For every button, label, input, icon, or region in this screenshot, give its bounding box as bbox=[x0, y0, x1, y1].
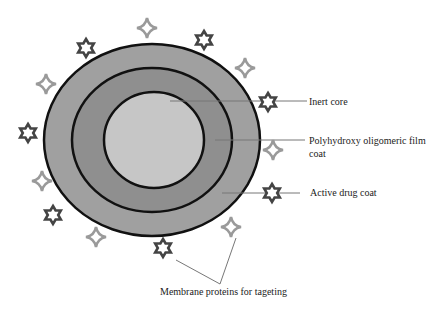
six-pointed-star-icon bbox=[45, 206, 61, 224]
polyhydroxy-label-line1: Polyhydroxy oligomeric film bbox=[309, 135, 426, 146]
four-pointed-star-icon bbox=[86, 227, 106, 247]
four-pointed-star-icon bbox=[221, 217, 241, 237]
polyhydroxy-label-line2: coat bbox=[309, 148, 326, 159]
inner-core bbox=[104, 92, 204, 188]
six-pointed-star-icon bbox=[264, 184, 280, 202]
nanoparticle-diagram: Inert core Polyhydroxy oligomeric film c… bbox=[0, 0, 439, 310]
six-pointed-star-icon bbox=[20, 124, 36, 142]
inert-core-label: Inert core bbox=[309, 96, 348, 107]
four-pointed-star-icon bbox=[235, 58, 255, 78]
membrane-proteins-label: Membrane proteins for tageting bbox=[160, 286, 287, 297]
active-drug-coat-label: Active drug coat bbox=[310, 187, 377, 198]
six-pointed-star-icon bbox=[260, 93, 276, 111]
six-pointed-star-icon bbox=[78, 39, 94, 57]
four-pointed-star-icon bbox=[263, 140, 283, 160]
membrane-leader-left bbox=[176, 260, 220, 284]
membrane-leader-right bbox=[220, 238, 236, 284]
six-pointed-star-icon bbox=[155, 239, 171, 257]
four-pointed-star-icon bbox=[36, 74, 56, 94]
four-pointed-star-icon bbox=[137, 18, 157, 38]
four-pointed-star-icon bbox=[32, 171, 52, 191]
six-pointed-star-icon bbox=[196, 31, 212, 49]
